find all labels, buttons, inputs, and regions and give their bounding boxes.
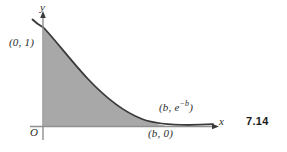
shaded-area-under-curve (44, 28, 166, 127)
label-point-b-exp-exponent: −b (180, 99, 190, 108)
label-point-b-exp-prefix: (b, e (159, 101, 180, 113)
label-point-zero-one: (0, 1) (9, 37, 34, 48)
label-point-b-exp-neg-b: (b, e−b) (159, 100, 193, 113)
label-point-b-exp-suffix: ) (189, 101, 193, 113)
x-axis-label: x (219, 116, 224, 127)
x-axis-arrowhead (212, 124, 219, 130)
label-point-b-zero: (b, 0) (148, 128, 173, 139)
origin-label: O (30, 127, 38, 138)
y-axis-label: y (40, 2, 45, 13)
exponential-decay-plot (0, 0, 287, 152)
figure-number: 7.14 (246, 115, 269, 127)
figure-container: (0, 1) (b, e−b) (b, 0) y x O 7.14 (0, 0, 287, 152)
